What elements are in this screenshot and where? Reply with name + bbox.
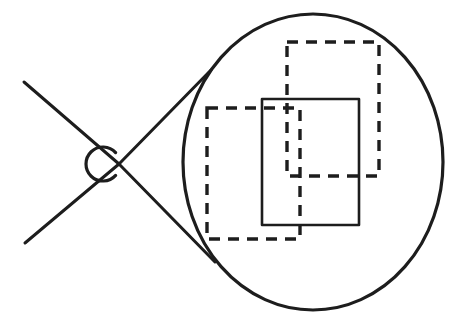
callout-line-upper: [119, 70, 211, 164]
callout-line-lower: [119, 164, 215, 262]
source-circle: [86, 147, 116, 181]
crosshair-line-upper-left: [24, 82, 119, 164]
crosshair-line-lower-left: [25, 164, 119, 243]
diagram-svg: [0, 0, 455, 322]
detail-ellipse: [183, 14, 443, 310]
rect-solid-center: [262, 99, 359, 225]
figure-canvas: [0, 0, 455, 322]
